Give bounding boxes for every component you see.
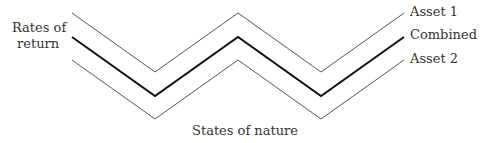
legend-combined: Combined: [410, 27, 477, 43]
y-axis-label-line2: return: [17, 36, 59, 52]
asset-1-line: [72, 13, 404, 72]
x-axis-label: States of nature: [192, 123, 298, 139]
legend-asset-2: Asset 2: [410, 51, 458, 67]
combined-line: [72, 37, 404, 96]
asset-2-line: [72, 60, 404, 119]
zigzag-lines: [0, 0, 485, 143]
legend-asset-1: Asset 1: [410, 4, 458, 20]
y-axis-label-line1: Rates of: [12, 20, 66, 36]
